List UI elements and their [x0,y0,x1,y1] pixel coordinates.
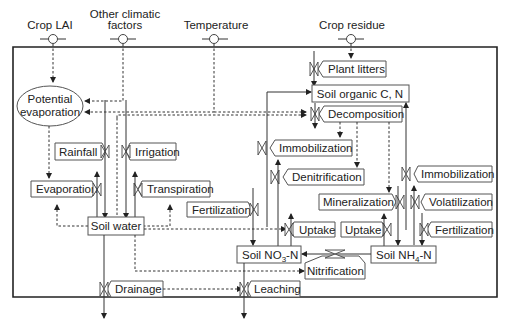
pool-soil-nh4-n: Soil NH4-N [371,246,436,264]
potential-evaporation-line1: Potential [28,93,73,105]
irrigation-label: Irrigation [135,146,180,158]
process-uptake-no3: Uptake [285,222,335,237]
immobilization-2-label: Immobilization [421,168,495,180]
crop-lai-label: Crop LAI [27,19,72,31]
process-transpiration: Transpiration [134,181,214,197]
process-evaporation: Evaporation [31,181,101,197]
fertilization-nh4-valve-icon [420,223,428,236]
input-temperature: Temperature [184,19,249,44]
denitrification-label: Denitrification [292,171,362,183]
process-immobilization-nh4: Immobilization [402,166,495,182]
mineralization-valve-icon [396,195,404,209]
uptake-nh4-label: Uptake [345,224,381,236]
rainfall-label: Rainfall [59,146,97,158]
process-volatilization: Volatilization [411,194,493,210]
process-irrigation: Irrigation [122,143,180,160]
transpiration-label: Transpiration [147,183,214,195]
input-crop-residue: Crop residue [319,19,385,44]
fertilization-no3-label: Fertilization [192,204,251,216]
nitrification-label: Nitrification [307,265,364,277]
soil-water-label: Soil water [91,220,142,232]
soil-organic-label: Soil organic C, N [317,88,403,100]
drainage-label: Drainage [115,283,162,295]
plant-litters-label: Plant litters [328,63,385,75]
other-climatic-label-line2: factors [108,19,143,31]
fertilization-nh4-label: Fertilization [435,224,494,236]
evaporation-label: Evaporation [36,183,97,195]
process-mineralization: Mineralization [319,194,404,210]
process-leaching: Leaching [240,281,301,297]
crop-lai-connector-icon [49,35,58,44]
process-decomposition: Decomposition [311,106,404,122]
fertilization-no3-valve-icon [250,203,258,216]
uptake-no3-label: Uptake [299,224,335,236]
mineralization-label: Mineralization [323,196,394,208]
immobilization-1-label: Immobilization [279,142,353,154]
process-fertilization-nh4: Fertilization [420,222,494,237]
process-denitrification: Denitrification [271,169,364,185]
soil-nitrogen-water-model-diagram: Crop LAI Other climatic factors Temperat… [0,0,509,326]
input-crop-lai: Crop LAI [27,19,72,44]
crop-residue-connector-icon [347,35,356,44]
process-plant-litters: Plant litters [310,61,386,77]
crop-residue-label: Crop residue [319,19,385,31]
pool-potential-evaporation: Potential evaporation [17,86,83,126]
temperature-connector-icon [210,35,219,44]
pool-soil-water: Soil water [88,217,144,235]
immobilization-1-valve-icon [258,141,266,155]
decomposition-label: Decomposition [328,108,404,120]
volatilization-label: Volatilization [429,196,493,208]
process-fertilization-no3: Fertilization [187,202,258,217]
temperature-label: Temperature [184,19,249,31]
process-drainage: Drainage [100,281,163,297]
leaching-label: Leaching [254,283,301,295]
potential-evaporation-line2: evaporation [20,106,80,118]
input-other-climatic-factors: Other climatic factors [90,8,161,44]
pool-soil-no3-n: Soil NO3-N [237,246,301,264]
process-rainfall: Rainfall [55,143,109,160]
pool-soil-organic-cn: Soil organic C, N [312,85,409,102]
other-climatic-connector-icon [119,35,128,44]
uptake-no3-valve-icon [285,223,293,236]
volatilization-valve-icon [411,195,419,209]
process-immobilization-no3: Immobilization [258,140,353,156]
